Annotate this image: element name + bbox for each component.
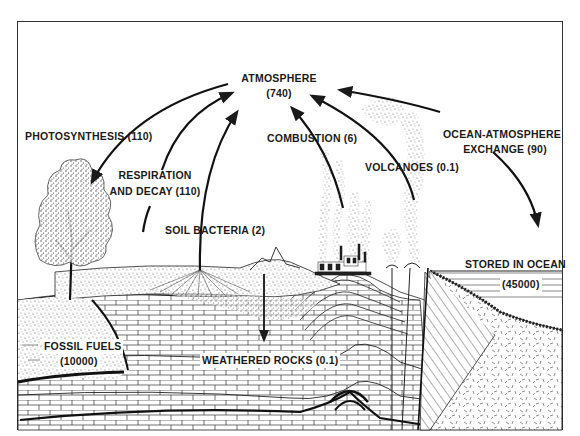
respiration-lower-arrow (143, 206, 150, 232)
flux-combustion-label: COMBUSTION (6) (267, 131, 357, 146)
reservoir-ocean-value: (45000) (500, 277, 542, 292)
flux-respiration-label-1: RESPIRATION (105, 168, 205, 183)
combustion-arrow (292, 108, 343, 208)
flux-respiration-label-2: AND DECAY (110) (100, 184, 210, 199)
ocean (418, 268, 562, 430)
reservoir-atmosphere-label: ATMOSPHERE (224, 71, 334, 86)
reservoir-fossil-fuels-value: (10000) (58, 354, 100, 369)
flux-soil-bacteria-label: SOIL BACTERIA (2) (165, 223, 265, 238)
flux-weathered-rocks-label: WEATHERED ROCKS (0.1) (200, 353, 340, 368)
flux-ocean-exchange-label-1: OCEAN-ATMOSPHERE (443, 127, 553, 142)
flux-ocean-exchange-label-2: EXCHANGE (90) (455, 142, 555, 157)
reservoir-ocean-label: STORED IN OCEAN (465, 257, 566, 272)
carbon-cycle-illustration (0, 0, 580, 436)
flux-volcanoes-label: VOLCANOES (0.1) (365, 160, 459, 175)
reservoir-atmosphere-value: (740) (224, 86, 334, 101)
flux-photosynthesis-label: PHOTOSYNTHESIS (110) (25, 129, 153, 144)
ocean-exchange-arrow-in (493, 152, 538, 225)
reservoir-fossil-fuels-label: FOSSIL FUELS (42, 339, 123, 354)
